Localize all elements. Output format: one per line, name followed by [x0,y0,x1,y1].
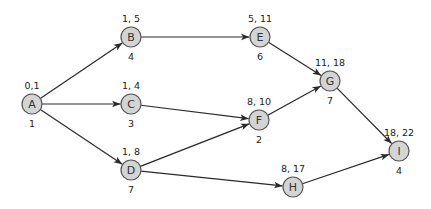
node-i: I18, 224 [384,127,414,176]
edge-a-d [40,110,122,165]
node-times-label: 1, 4 [122,80,140,91]
node-c: C1, 43 [121,80,141,129]
edge-d-h [141,171,283,186]
node-id-label: I [397,145,400,158]
node-b: B1, 54 [121,13,141,62]
node-times-label: 8, 17 [281,163,305,174]
node-times-label: 8, 10 [247,96,271,107]
edge-c-f [141,105,249,118]
edge-d-f [140,124,249,167]
node-duration-label: 3 [128,118,134,129]
node-f: F8, 102 [247,96,271,145]
node-duration-label: 6 [257,51,263,62]
node-a: A0,11 [22,80,42,129]
edge-e-g [268,42,321,75]
node-id-label: D [127,164,135,177]
node-times-label: 11, 18 [315,57,345,68]
node-times-label: 0,1 [24,80,39,91]
node-id-label: C [127,98,135,111]
edge-a-b [40,43,122,99]
node-id-label: B [127,31,135,44]
node-id-label: E [257,31,264,44]
node-times-label: 1, 8 [122,146,140,157]
node-duration-label: 4 [396,165,402,176]
network-diagram: A0,11B1, 54C1, 43D1, 87E5, 116F8, 102G11… [0,0,431,209]
node-id-label: H [289,181,297,194]
node-h: H8, 17 [281,163,305,198]
nodes-layer: A0,11B1, 54C1, 43D1, 87E5, 116F8, 102G11… [22,13,414,198]
node-times-label: 18, 22 [384,127,414,138]
edge-h-i [302,154,389,183]
node-duration-label: 2 [256,134,262,145]
node-g: G11, 187 [315,57,345,106]
node-d: D1, 87 [121,146,141,195]
node-id-label: A [28,98,36,111]
node-duration-label: 1 [29,118,35,129]
node-duration-label: 7 [327,95,333,106]
node-duration-label: 4 [128,51,134,62]
node-duration-label: 7 [128,184,134,195]
node-e: E5, 116 [248,13,272,62]
edge-f-g [268,86,321,115]
node-id-label: G [326,75,335,88]
node-times-label: 1, 5 [122,13,140,24]
node-times-label: 5, 11 [248,13,272,24]
node-id-label: F [256,114,262,127]
